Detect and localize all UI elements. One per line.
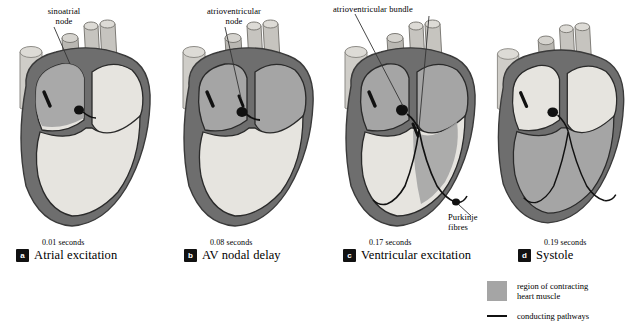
panel-title-c: Ventricular excitation [361, 248, 471, 263]
leader-lines-c [325, 0, 500, 240]
seconds-a: 0.01 seconds [42, 238, 176, 247]
panel-badge-b: b [184, 249, 197, 262]
caption-b: 0.08 seconds b AV nodal delay [184, 238, 344, 263]
panel-badge-c: c [343, 249, 356, 262]
seconds-d: 0.19 seconds [544, 238, 640, 247]
panel-a: sinoatrial node 0.01 seconds a Atrial ex… [0, 0, 160, 285]
annotation-sinoatrial-node: sinoatrial node [16, 6, 112, 26]
caption-a: 0.01 seconds a Atrial excitation [16, 238, 176, 263]
leader-line-sa-node [0, 0, 170, 240]
panel-d: 0.19 seconds d Systole [478, 0, 638, 285]
atrioventricular-node-marker-d [547, 107, 558, 117]
annotation-atrioventricular-node: atrioventricular node [181, 6, 287, 26]
legend: region of contracting heart muscle condu… [487, 281, 637, 331]
legend-item-conducting-pathways: conducting pathways [487, 306, 637, 326]
seconds-b: 0.08 seconds [210, 238, 344, 247]
chamber-left-d [513, 65, 560, 130]
legend-label-conducting-pathways: conducting pathways [517, 306, 589, 321]
legend-swatch-icon [487, 281, 507, 301]
legend-item-contracting-muscle: region of contracting heart muscle [487, 281, 637, 301]
legend-line-icon [487, 306, 507, 326]
panel-title-a: Atrial excitation [34, 248, 117, 263]
panel-title-d: Systole [536, 248, 574, 263]
panel-badge-a: a [16, 249, 29, 262]
caption-d: 0.19 seconds d Systole [518, 238, 640, 263]
panel-title-b: AV nodal delay [202, 248, 281, 263]
legend-label-contracting-muscle: region of contracting heart muscle [517, 281, 588, 301]
panel-b: atrioventricular node 0.08 seconds b AV … [163, 0, 323, 285]
panel-badge-d: d [518, 249, 531, 262]
leader-line-av-node [163, 0, 333, 240]
panel-c: atrioventricular bundle Purkinje fibres … [325, 0, 485, 285]
annotation-atrioventricular-bundle: atrioventricular bundle [333, 4, 483, 14]
cardiac-conduction-figure: sinoatrial node 0.01 seconds a Atrial ex… [0, 0, 640, 334]
heart-diagram-d [478, 0, 640, 240]
